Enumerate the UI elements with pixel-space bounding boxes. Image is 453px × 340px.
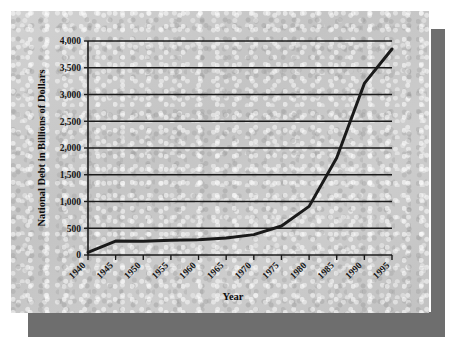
y-tick-label: 1,500 [60,170,82,180]
x-axis-title: Year [223,291,244,302]
x-tick-label: 1985 [316,260,337,281]
y-tick-label: 2,000 [60,143,82,153]
y-tick-label: 1,000 [60,197,82,207]
y-tick-label: 2,500 [60,117,82,127]
x-tick-label: 1940 [67,260,88,281]
x-tick-label: 1945 [95,260,116,281]
debt-line-series [88,49,392,252]
x-tick-label: 1950 [122,260,143,281]
y-tick-label: 500 [67,224,82,234]
x-tick-label: 1955 [150,260,171,281]
x-tick-label: 1960 [177,260,198,281]
figure-scene: 05001,0001,5002,0002,5003,0003,5004,000 … [0,0,453,340]
x-tick-label: 1970 [233,260,254,281]
line-chart: 05001,0001,5002,0002,5003,0003,5004,000 … [0,0,453,340]
y-tick-label: 3,500 [60,63,82,73]
y-tick-label: 0 [76,250,81,260]
y-tick-label: 4,000 [60,36,82,46]
y-tick-label: 3,000 [60,90,82,100]
x-tick-label: 1975 [260,260,281,281]
x-tick-label: 1990 [343,260,364,281]
x-tick-label: 1980 [288,260,309,281]
x-tick-label: 1965 [205,260,226,281]
x-tick-label: 1995 [371,260,392,281]
y-axis-title: National Debt in Billions of Dollars [36,69,47,226]
y-axis-tick-labels: 05001,0001,5002,0002,5003,0003,5004,000 [60,36,82,260]
x-axis-tick-labels: 1940194519501955196019651970197519801985… [67,260,392,281]
